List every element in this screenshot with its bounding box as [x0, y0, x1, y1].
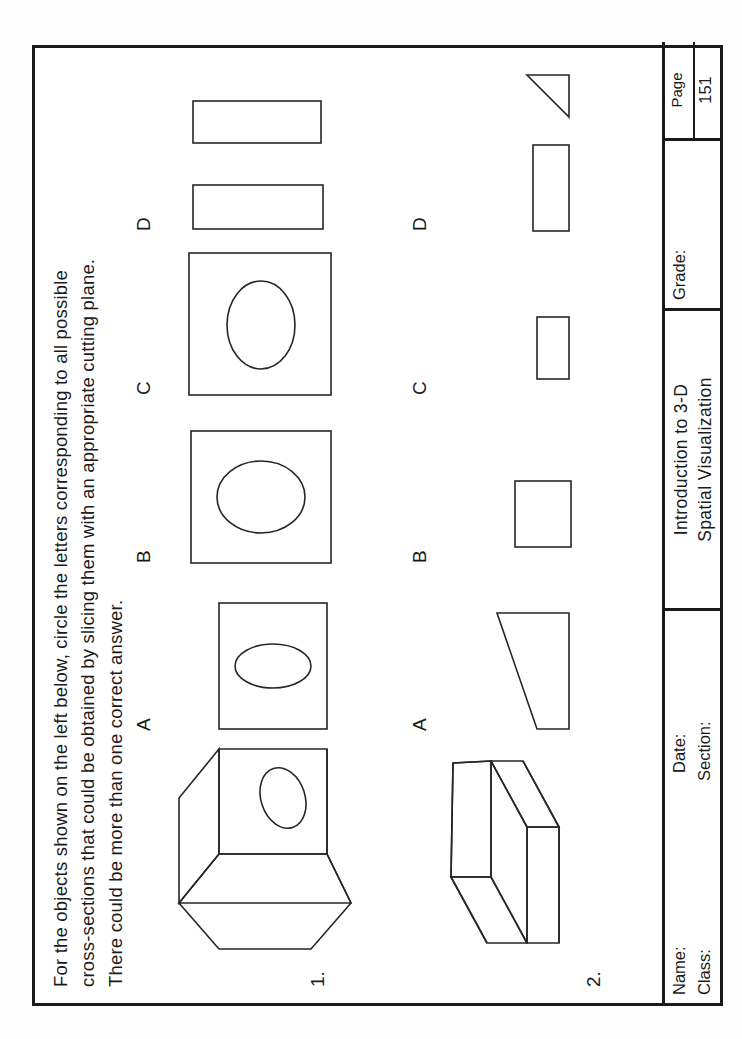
- worksheet-rotation-wrapper: For the objects shown on the left below,…: [32, 45, 723, 1006]
- class-label: Class:: [695, 949, 714, 995]
- question-2-option-d-art: [437, 85, 637, 235]
- question-1-option-d-label: D: [133, 217, 155, 231]
- question-2-option-d[interactable]: D: [403, 85, 653, 235]
- question-1-option-b-label: B: [133, 550, 155, 563]
- question-2-options: A B C: [403, 45, 653, 735]
- question-1-option-d-art: [161, 85, 361, 235]
- question-2-option-a-art: [437, 585, 637, 735]
- question-1-option-b[interactable]: B: [127, 417, 377, 567]
- question-2-option-b-art: [437, 417, 637, 567]
- date-label: Date:: [670, 734, 689, 773]
- question-1: 1. A: [127, 42, 377, 1003]
- question-1-option-c[interactable]: C: [127, 249, 377, 399]
- instructions-text: For the objects shown on the left below,…: [47, 87, 129, 987]
- question-1-number: 1.: [307, 971, 329, 987]
- footer-grade-cell: Grade:: [665, 138, 720, 308]
- grade-label: Grade:: [670, 250, 689, 300]
- question-2-option-a[interactable]: A: [403, 585, 653, 735]
- question-1-option-a-label: A: [133, 718, 155, 731]
- section-label: Section:: [695, 721, 714, 781]
- question-2-option-c-label: C: [409, 381, 431, 395]
- question-1-object-cube-with-ellipse: [155, 741, 365, 961]
- question-2-option-a-label: A: [409, 718, 431, 731]
- question-1-option-b-art: [161, 417, 361, 567]
- question-2-option-c-art: [437, 249, 637, 399]
- question-2: 2. A: [403, 42, 653, 1003]
- question-1-option-a-art: [161, 585, 361, 735]
- question-1-option-c-label: C: [133, 381, 155, 395]
- question-2-object-bent-slab: [431, 741, 641, 961]
- footer-page-cell: Page 151: [665, 42, 720, 138]
- question-2-option-c[interactable]: C: [403, 249, 653, 399]
- worksheet-page-frame: For the objects shown on the left below,…: [32, 45, 723, 1006]
- question-2-number: 2.: [583, 971, 605, 987]
- question-1-options: A B C: [127, 45, 377, 735]
- question-1-option-d[interactable]: D: [127, 85, 377, 235]
- question-1-option-c-art: [161, 249, 361, 399]
- question-2-option-b[interactable]: B: [403, 417, 653, 567]
- worksheet-title-line-2: Spatial Visualization: [695, 311, 716, 608]
- page-cell-divider: [693, 42, 695, 138]
- question-2-option-d-label: D: [409, 217, 431, 231]
- name-label: Name:: [670, 946, 689, 995]
- footer-identity-cell: Name: Class: Date: Section:: [665, 608, 720, 1003]
- footer-title-cell: Introduction to 3-D Spatial Visualizatio…: [665, 308, 720, 608]
- page-number: 151: [696, 42, 715, 138]
- footer-strip: Name: Class: Date: Section: Introduction…: [662, 42, 720, 1003]
- page-label: Page: [668, 42, 685, 138]
- question-1-option-a[interactable]: A: [127, 585, 377, 735]
- question-2-option-b-label: B: [409, 550, 431, 563]
- worksheet-title-line-1: Introduction to 3-D: [671, 311, 692, 608]
